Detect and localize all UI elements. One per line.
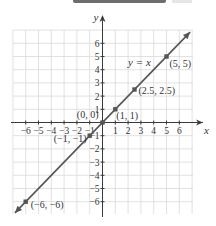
data-point — [24, 200, 28, 204]
x-tick-label: 6 — [177, 126, 182, 136]
x-tick-label: 5 — [164, 126, 169, 136]
y-tick-label: 2 — [95, 92, 100, 102]
x-axis-label: x — [203, 124, 209, 136]
y-tick-label: 5 — [95, 52, 100, 62]
y-tick-label: −2 — [89, 144, 99, 154]
data-point — [100, 120, 104, 124]
x-tick-label: 1 — [113, 126, 118, 136]
y-tick-label: 3 — [95, 78, 100, 88]
x-tick-label: −6 — [21, 126, 31, 136]
data-point — [164, 54, 168, 58]
x-tick-label: −5 — [33, 126, 43, 136]
equation-label: y = x — [127, 56, 151, 68]
point-label: (1, 1) — [116, 110, 138, 122]
x-tick-label: 3 — [139, 126, 144, 136]
y-tick-label: −5 — [89, 184, 99, 194]
point-label: (0, 0) — [77, 109, 99, 121]
point-label: (−6, −6) — [31, 199, 64, 211]
x-tick-label: 2 — [126, 126, 131, 136]
y-tick-label: −3 — [89, 158, 99, 168]
y-tick-label: −4 — [89, 171, 99, 181]
point-label: (2.5, 2.5) — [139, 85, 176, 97]
y-tick-label: 6 — [95, 39, 100, 49]
point-label: (5, 5) — [170, 58, 192, 70]
y-tick-label: 4 — [95, 65, 100, 75]
y-tick-label: −6 — [89, 197, 99, 207]
x-tick-label: 4 — [151, 126, 156, 136]
y-axis-label: y — [93, 11, 99, 23]
coordinate-plane: xy −6−5−4−3−2−1123456−6−5−4−3−2−1123456 … — [0, 0, 216, 226]
data-point — [132, 87, 136, 91]
point-label: (−1, −1) — [54, 133, 87, 145]
data-point — [88, 134, 92, 138]
